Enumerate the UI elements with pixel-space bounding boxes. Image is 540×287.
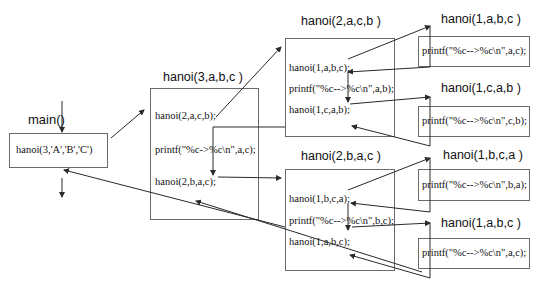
level2-top-line-1: hanoi(1,a,b,c); [289, 62, 350, 73]
level2-bottom-line-1: hanoi(1,b,c,a); [289, 193, 350, 204]
main-to-level3-arrow [111, 110, 144, 138]
level3-line-2: printf("%c->%c\n",a,c); [155, 144, 256, 155]
level2-top-title: hanoi(2,a,c,b ) [301, 14, 381, 28]
leaf-3-box: printf("%c-->%c\n",b,a); [418, 169, 530, 201]
level2-bottom-line-2: printf("%c-->%c\n",b,c); [289, 215, 394, 226]
level3-box: hanoi(2,a,c,b); printf("%c->%c\n",a,c); … [150, 88, 259, 220]
level2-bottom-line-3: hanoi(1,a,b,c); [289, 236, 350, 247]
leaf-2-line: printf("%c-->%c\n",c,b); [422, 115, 527, 126]
level3-line-1: hanoi(2,a,c,b); [155, 110, 216, 121]
level2-bottom-box: hanoi(1,b,c,a); printf("%c-->%c\n",b,c);… [285, 169, 395, 271]
leaf-3-title: hanoi(1,b,c,a ) [443, 148, 523, 162]
hanoi-recursion-diagram: main() hanoi(3,'A','B','C') hanoi(3,a,b,… [0, 0, 540, 287]
leaf-1-line: printf("%c-->%c\n",a,c); [422, 45, 526, 56]
main-call-box: hanoi(3,'A','B','C') [9, 133, 108, 168]
level3-title: hanoi(3,a,b,c ) [163, 70, 243, 84]
main-label: main() [28, 112, 65, 127]
leaf-3-line: printf("%c-->%c\n",b,a); [422, 179, 527, 190]
leaf-4-box: printf("%c-->%c\n",a,c); [418, 238, 530, 269]
level2-top-line-2: printf("%c-->%c\n",a,b); [289, 83, 394, 94]
level2-top-line-3: hanoi(1,c,a,b); [289, 104, 350, 115]
leaf-4-title: hanoi(1,a,b,c ) [441, 216, 521, 230]
main-call-text: hanoi(3,'A','B','C') [16, 144, 92, 155]
level2-top-box: hanoi(1,a,b,c); printf("%c-->%c\n",a,b);… [285, 38, 395, 137]
level3-line-3: hanoi(2,b,a,c); [155, 176, 216, 187]
leaf-1-box: printf("%c-->%c\n",a,c); [418, 36, 530, 67]
leaf-2-title: hanoi(1,c,a,b ) [441, 81, 521, 95]
level2-bottom-title: hanoi(2,b,a,c ) [301, 149, 381, 163]
leaf-1-title: hanoi(1,a,b,c ) [441, 12, 521, 26]
leaf-4-line: printf("%c-->%c\n",a,c); [422, 247, 526, 258]
leaf-2-box: printf("%c-->%c\n",c,b); [418, 106, 530, 137]
